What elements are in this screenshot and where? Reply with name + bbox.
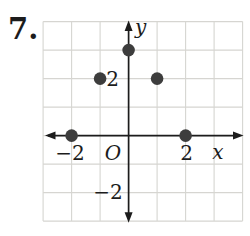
coordinate-plane-plot: 7. y x O −2 2 2 −2 [0,0,250,236]
y-tick-label-pos2: 2 [106,67,119,91]
y-axis-label: y [134,15,147,39]
x-axis-right-arrowhead-icon [233,132,244,140]
data-point [94,72,107,85]
x-tick-label-neg2: −2 [55,141,84,165]
gridlines [43,22,243,222]
y-tick-label-neg2: −2 [93,180,122,204]
x-axis-left-arrowhead-icon [45,132,56,140]
problem-number: 7. [8,12,38,46]
labels: 7. y x O −2 2 2 −2 [8,12,224,204]
data-point [122,44,135,57]
origin-label: O [105,141,121,165]
x-axis-label: x [212,140,223,164]
textbook-figure: 7. y x O −2 2 2 −2 [0,0,250,236]
data-point [179,129,192,142]
x-tick-label-pos2: 2 [180,141,193,165]
data-point [151,72,164,85]
data-point [65,129,78,142]
